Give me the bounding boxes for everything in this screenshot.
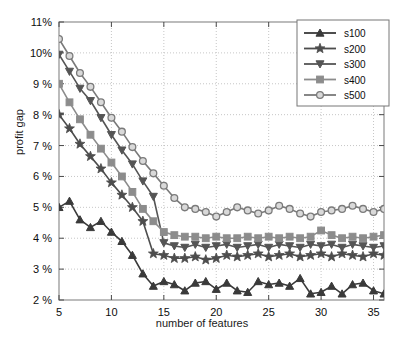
circle-marker xyxy=(265,207,272,214)
circle-marker xyxy=(255,210,262,217)
square-marker xyxy=(370,233,377,240)
square-marker xyxy=(98,145,105,152)
circle-marker xyxy=(286,205,293,212)
circle-marker xyxy=(360,205,367,212)
circle-marker xyxy=(56,36,63,43)
square-marker xyxy=(87,131,94,138)
star-marker xyxy=(295,252,305,261)
star-marker xyxy=(169,253,179,262)
x-tick-label: 20 xyxy=(210,306,222,318)
triangle-up-marker xyxy=(139,270,147,277)
star-marker xyxy=(190,252,200,261)
square-marker xyxy=(213,233,220,240)
x-tick-label: 15 xyxy=(158,306,170,318)
star-marker xyxy=(222,250,232,259)
triangle-up-marker xyxy=(223,279,231,286)
triangle-up-marker xyxy=(202,277,210,284)
x-tick-label: 25 xyxy=(263,306,275,318)
square-marker xyxy=(265,233,272,240)
triangle-down-marker xyxy=(202,244,210,251)
square-marker xyxy=(276,235,283,242)
triangle-up-marker xyxy=(328,282,336,289)
triangle-down-marker xyxy=(338,244,346,251)
triangle-up-marker xyxy=(296,274,304,281)
y-tick-label: 7 % xyxy=(33,140,52,152)
x-tick-label: 35 xyxy=(367,306,379,318)
circle-marker xyxy=(202,209,209,216)
circle-marker xyxy=(339,205,346,212)
star-marker xyxy=(274,250,284,259)
triangle-down-marker xyxy=(86,98,94,105)
circle-marker xyxy=(370,209,377,216)
star-marker xyxy=(253,248,263,257)
circle-marker xyxy=(171,195,178,202)
legend[interactable]: s100s200s300s400s500 xyxy=(297,20,389,106)
square-marker xyxy=(244,233,251,240)
circle-marker xyxy=(318,209,325,216)
y-tick-label: 3 % xyxy=(33,263,52,275)
legend-label: s500 xyxy=(344,90,366,101)
triangle-down-marker xyxy=(65,68,73,75)
triangle-down-marker xyxy=(296,244,304,251)
square-marker xyxy=(328,232,335,239)
y-tick-label: 9 % xyxy=(33,78,52,90)
circle-marker xyxy=(234,204,241,211)
triangle-down-marker xyxy=(370,244,378,251)
square-marker xyxy=(286,233,293,240)
square-marker xyxy=(129,188,136,195)
square-marker xyxy=(202,235,209,242)
triangle-up-marker xyxy=(317,288,325,295)
star-marker xyxy=(358,252,368,261)
circle-marker xyxy=(98,99,105,106)
chart-figure: profit gap number of features 2 %3 %4 %5… xyxy=(0,0,404,337)
square-marker xyxy=(307,233,314,240)
triangle-down-marker xyxy=(55,51,63,58)
triangle-up-marker xyxy=(65,197,73,204)
triangle-up-marker xyxy=(359,279,367,286)
triangle-down-marker xyxy=(128,161,136,168)
circle-marker xyxy=(192,205,199,212)
star-marker xyxy=(306,250,316,259)
circle-marker xyxy=(129,144,136,151)
legend-label: s100 xyxy=(344,28,366,39)
star-marker xyxy=(243,250,253,259)
circle-marker xyxy=(276,202,283,209)
star-marker xyxy=(232,252,242,261)
star-marker xyxy=(348,250,358,259)
square-marker xyxy=(360,235,367,242)
square-marker xyxy=(317,76,324,83)
circle-marker xyxy=(139,158,146,165)
square-marker xyxy=(255,235,262,242)
square-marker xyxy=(297,235,304,242)
square-marker xyxy=(339,235,346,242)
triangle-down-marker xyxy=(317,243,325,250)
square-marker xyxy=(318,227,325,234)
legend-label: s300 xyxy=(344,59,366,70)
triangle-down-marker xyxy=(265,244,273,251)
x-tick-label: 10 xyxy=(105,306,117,318)
square-marker xyxy=(77,116,84,123)
star-marker xyxy=(180,253,190,262)
circle-marker xyxy=(181,204,188,211)
square-marker xyxy=(139,205,146,212)
circle-marker xyxy=(87,83,94,90)
y-tick-label: 11% xyxy=(31,16,52,28)
square-marker xyxy=(108,159,115,166)
circle-marker xyxy=(213,213,220,220)
square-marker xyxy=(150,218,157,225)
star-marker xyxy=(211,253,221,262)
y-tick-label: 6 % xyxy=(33,170,52,182)
triangle-down-marker xyxy=(97,115,105,122)
legend-label: s200 xyxy=(344,44,366,55)
circle-marker xyxy=(160,182,167,189)
legend-label: s400 xyxy=(344,75,366,86)
star-marker xyxy=(327,252,337,261)
circle-marker xyxy=(223,209,230,216)
square-marker xyxy=(56,80,63,87)
circle-marker xyxy=(119,128,126,135)
star-marker xyxy=(159,250,169,259)
triangle-up-marker xyxy=(275,279,283,286)
circle-marker xyxy=(244,207,251,214)
square-marker xyxy=(119,173,126,180)
triangle-up-marker xyxy=(254,277,262,284)
